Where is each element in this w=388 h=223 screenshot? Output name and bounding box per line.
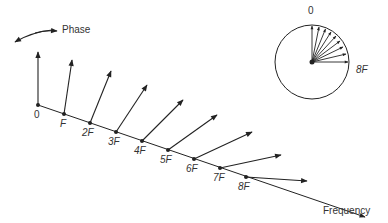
inset-phasor-circle (275, 25, 349, 99)
phase-label: Phase (62, 24, 90, 35)
tick-0: 0 (34, 109, 40, 120)
tick-8F: 8F (238, 181, 250, 192)
tick-7F: 7F (213, 172, 225, 183)
frequency-points (36, 103, 248, 179)
tick-4F: 4F (134, 145, 146, 156)
phasor-frequency-diagram: Phase Frequency 0 F 2F 3F 4F 5F 6F 7F 8F… (0, 0, 388, 223)
inset-label-8F: 8F (356, 64, 368, 75)
inset-label-0: 0 (308, 5, 314, 16)
tick-3F: 3F (108, 136, 120, 147)
phasor-arrows (38, 52, 307, 181)
tick-5F: 5F (160, 154, 172, 165)
tick-6F: 6F (186, 163, 198, 174)
diagram-svg (0, 0, 388, 223)
frequency-label: Frequency (323, 205, 370, 216)
phase-rotation-arrow-icon (15, 30, 57, 42)
tick-2F: 2F (82, 127, 94, 138)
tick-F: F (60, 118, 66, 129)
frequency-axis (38, 105, 365, 217)
